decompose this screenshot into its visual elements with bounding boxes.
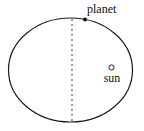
- planet-label: planet: [87, 3, 116, 15]
- orbit-diagram-canvas: [0, 0, 144, 131]
- orbit-ellipse: [9, 18, 133, 122]
- sun-label: sun: [100, 72, 124, 84]
- planet-marker-dot: [83, 18, 87, 22]
- sun-marker-circle: [109, 65, 114, 70]
- orbit-diagram: planet sun: [0, 0, 144, 131]
